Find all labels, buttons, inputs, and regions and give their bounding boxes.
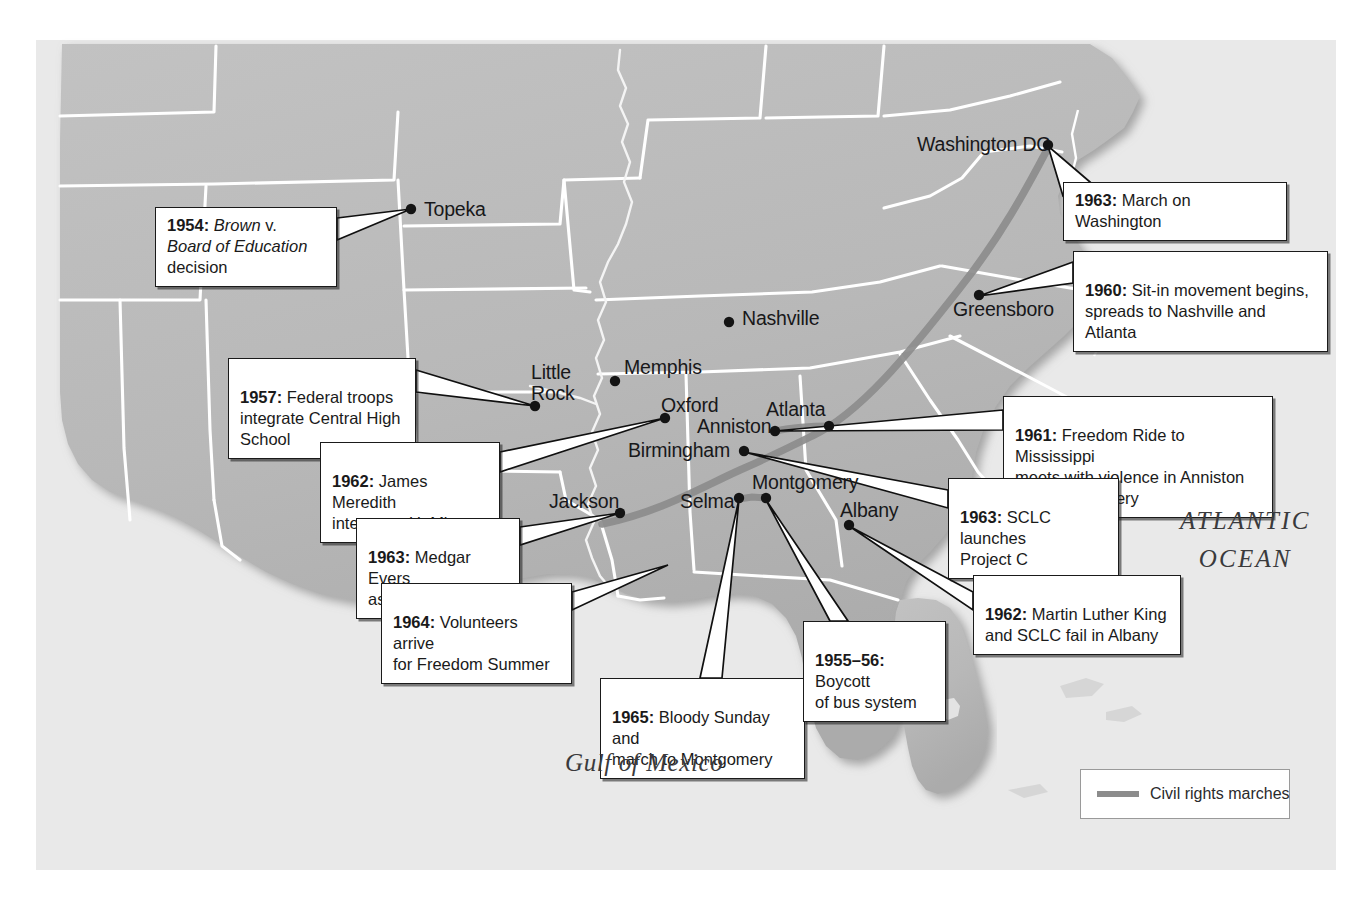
map-legend: Civil rights marches (1080, 769, 1290, 819)
city-label-jackson: Jackson (549, 491, 619, 511)
callout-case-name-2: Board of Education (167, 237, 307, 255)
city-label-selma: Selma (680, 491, 734, 511)
callout-year-1962-albany: 1962: (985, 605, 1027, 623)
city-label-washington-dc: Washington DC (917, 134, 1050, 154)
city-label-little-rock: Little Rock (531, 362, 575, 403)
city-label-atlanta: Atlanta (766, 399, 825, 419)
callout-year-1957: 1957: (240, 388, 282, 406)
callout-year-1963-evers: 1963: (368, 548, 410, 566)
callout-freedom-summer: 1964: Volunteers arrive for Freedom Summ… (381, 583, 572, 684)
callout-march-on-washington: 1963: March on Washington (1063, 182, 1287, 241)
callout-year-1963-sclc: 1963: (960, 508, 1002, 526)
callout-albany-movement: 1962: Martin Luther King and SCLC fail i… (973, 575, 1181, 655)
city-label-albany: Albany (840, 500, 898, 520)
city-dot-memphis (610, 376, 620, 386)
city-label-montgomery: Montgomery (752, 472, 858, 492)
callout-sit-in-movement: 1960: Sit-in movement begins, spreads to… (1073, 251, 1328, 352)
callout-year-1962-meredith: 1962: (332, 472, 374, 490)
city-dot-topeka (406, 204, 416, 214)
city-label-memphis: Memphis (624, 357, 702, 377)
callout-year-1965: 1965: (612, 708, 654, 726)
callout-year-1964: 1964: (393, 613, 435, 631)
city-dot-atlanta (824, 421, 834, 431)
callout-year-1963-march: 1963: (1075, 191, 1117, 209)
city-dot-albany (844, 520, 854, 530)
callout-year-1954: 1954: (167, 216, 209, 234)
city-label-birmingham: Birmingham (628, 440, 730, 460)
city-label-nashville: Nashville (742, 308, 819, 328)
city-dot-anniston (770, 426, 780, 436)
callout-case-name: Brown (214, 216, 261, 234)
city-dot-selma (734, 493, 744, 503)
city-label-oxford: Oxford (661, 395, 718, 415)
city-label-anniston: Anniston (697, 416, 771, 436)
city-dot-nashville (724, 317, 734, 327)
city-dot-montgomery (761, 493, 771, 503)
callout-project-c: 1963: SCLC launches Project C (948, 478, 1119, 579)
city-dot-birmingham (739, 446, 749, 456)
civil-rights-map: Topeka Washington DC Greensboro Nashvill… (0, 0, 1371, 911)
callout-year-1960: 1960: (1085, 281, 1127, 299)
callout-year-1955-56: 1955–56: (815, 651, 885, 669)
city-label-topeka: Topeka (424, 199, 486, 219)
city-label-greensboro: Greensboro (953, 299, 1054, 319)
callout-body-bus-boycott: Boycott of bus system (815, 672, 917, 711)
legend-label-civil-rights-marches: Civil rights marches (1150, 785, 1290, 803)
gulf-of-mexico-label: Gulf of Mexico (565, 749, 723, 777)
march-route-legend-swatch (1097, 791, 1139, 797)
callout-year-1961: 1961: (1015, 426, 1057, 444)
callout-brown-v-board: 1954: Brown v. Board of Education decisi… (155, 207, 337, 287)
callout-bus-boycott: 1955–56: Boycott of bus system (803, 621, 946, 722)
atlantic-ocean-label: ATLANTIC OCEAN (1180, 502, 1311, 577)
